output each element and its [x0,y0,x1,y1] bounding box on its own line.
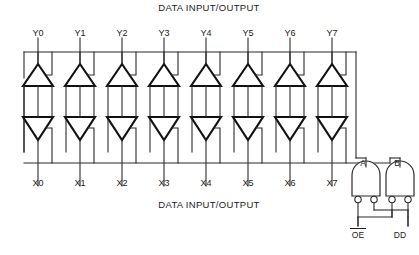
enable-tap-up-5 [256,52,262,75]
enable-tap-down-5 [256,128,262,163]
enable-tap-up-7 [340,52,346,75]
y-pin-label-3: Y3 [158,28,169,38]
bottom-caption: DATA INPUT/OUTPUT [158,199,259,210]
x-pin-label-0: X0 [32,178,43,188]
gate-b-input-bubble-1 [389,196,395,202]
x-pin-label-7: X7 [326,178,337,188]
x-pin-label-5: X5 [242,178,253,188]
channel-group-0: X0 [23,52,53,188]
channel-group-1: X1 [65,52,95,188]
enable-tap-down-0 [46,128,52,163]
x-pin-label-3: X3 [158,178,169,188]
enable-tap-up-6 [298,52,304,75]
enable-tap-down-3 [172,128,178,163]
gate-a-input-bubble-1 [355,196,361,202]
enable-tap-up-4 [214,52,220,75]
enable-tap-down-7 [340,128,346,163]
channel-group-4: X4 [191,52,221,188]
gate-b-group: B [386,158,414,226]
y-pin-label-7: Y7 [326,28,337,38]
enable-tap-down-4 [214,128,220,163]
logic-diagram-canvas: DATA INPUT/OUTPUT Y0 Y1 Y2 Y3 Y4 Y5 Y6 [0,0,419,255]
y-pin-label-5: Y5 [242,28,253,38]
control-routing-group [358,210,408,226]
channel-group-3: X3 [149,52,179,188]
control-pin-labels: OE DD [350,229,406,241]
enable-tap-down-6 [298,128,304,163]
gate-a-label: A [360,158,366,168]
enable-tap-up-3 [172,52,178,75]
y-pin-label-1: Y1 [74,28,85,38]
channel-group-2: X2 [107,52,137,188]
enable-tap-down-1 [88,128,94,163]
y-pin-label-6: Y6 [284,28,295,38]
oe-pin-label: OE [352,230,365,240]
enable-tap-down-2 [130,128,136,163]
x-pin-label-4: X4 [200,178,211,188]
gate-a-input-bubble-2 [371,196,377,202]
x-pin-label-2: X2 [116,178,127,188]
channel-group-5: X5 [233,52,263,188]
x-pin-label-1: X1 [74,178,85,188]
enable-tap-up-1 [88,52,94,75]
y-pin-label-4: Y4 [200,28,211,38]
enable-tap-up-0 [46,52,52,75]
dd-pin-label: DD [394,230,406,240]
y-pin-label-2: Y2 [116,28,127,38]
channel-group-6: X6 [275,52,305,188]
x-pin-label-6: X6 [284,178,295,188]
gate-b-input-bubble-2 [405,196,411,202]
gate-a-group: A [352,158,380,226]
top-caption: DATA INPUT/OUTPUT [158,2,259,13]
channel-group-7: X7 [317,52,347,188]
y-pin-label-0: Y0 [32,28,43,38]
enable-tap-up-2 [130,52,136,75]
diagram-page: DATA INPUT/OUTPUT Y0 Y1 Y2 Y3 Y4 Y5 Y6 [0,0,419,255]
gate-b-label: B [394,158,400,168]
